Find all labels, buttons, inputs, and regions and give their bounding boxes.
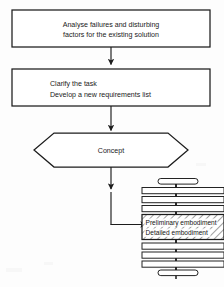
stack-bar-top-cap bbox=[158, 179, 198, 185]
node-concept-label: Concept bbox=[98, 147, 124, 155]
node-clarify-task[interactable]: Clarify the task Develop a new requireme… bbox=[12, 69, 210, 106]
node-clarify-task-line2: Develop a new requirements list bbox=[50, 91, 151, 99]
node-embodiment-line2: Detailed embodiment bbox=[146, 229, 208, 236]
flowchart-svg: Analyse failures and disturbing factors … bbox=[0, 0, 224, 287]
node-embodiment-line1: Preliminary embodiment bbox=[146, 219, 217, 227]
node-embodiment[interactable]: Preliminary embodiment Detailed embodime… bbox=[142, 215, 224, 240]
node-clarify-task-line1: Clarify the task bbox=[50, 80, 97, 88]
stack-bar-above-3 bbox=[142, 206, 224, 212]
stack-bar-below-1 bbox=[142, 243, 224, 249]
stack-bar-above-2 bbox=[142, 197, 224, 203]
stack-bar-below-3 bbox=[142, 261, 224, 267]
embodiment-stack[interactable]: Preliminary embodiment Detailed embodime… bbox=[142, 179, 224, 280]
node-clarify-task-box bbox=[12, 69, 210, 106]
stack-bar-bottom-cap bbox=[158, 270, 198, 276]
node-analyse-failures-line2: factors for the existing solution bbox=[63, 31, 159, 39]
stack-bar-below-2 bbox=[142, 252, 224, 258]
stack-bar-above-1 bbox=[142, 188, 224, 194]
node-analyse-failures[interactable]: Analyse failures and disturbing factors … bbox=[12, 10, 210, 47]
connector-concept-to-embodiment bbox=[110, 167, 146, 225]
node-analyse-failures-box bbox=[12, 10, 210, 47]
node-analyse-failures-line1: Analyse failures and disturbing bbox=[63, 21, 160, 29]
diagram-canvas: Analyse failures and disturbing factors … bbox=[0, 0, 224, 287]
node-concept[interactable]: Concept bbox=[34, 133, 188, 167]
